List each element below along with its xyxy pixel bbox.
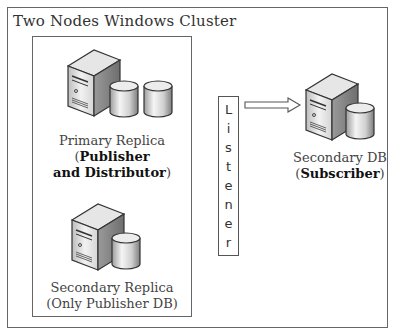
listener-letter: i — [227, 122, 231, 136]
server-with-two-databases-icon — [64, 42, 174, 120]
secondary-replica-label: Secondary Replica (Only Publisher DB) — [32, 280, 192, 312]
primary-replica-role-line2: and Distributor) — [32, 165, 192, 181]
listener-letter: e — [225, 217, 233, 231]
server-with-database-icon — [302, 66, 378, 144]
listener-letter: r — [226, 236, 231, 250]
primary-replica-label: Primary Replica (Publisher and Distribut… — [32, 133, 192, 181]
hollow-arrow-icon — [244, 97, 302, 113]
listener-letter: t — [226, 160, 231, 174]
server-with-database-icon — [68, 196, 144, 274]
subscriber-role: (Subscriber) — [280, 166, 398, 182]
subscriber-name: Secondary DB — [280, 150, 398, 166]
primary-replica-name: Primary Replica — [32, 133, 192, 149]
listener-letter: L — [225, 103, 232, 117]
listener-box: L i s t e n e r — [218, 96, 239, 256]
listener-letter: n — [224, 198, 232, 212]
secondary-replica-name: Secondary Replica — [32, 280, 192, 296]
primary-replica-role-line1: (Publisher — [32, 149, 192, 165]
secondary-replica-role: (Only Publisher DB) — [32, 296, 192, 312]
subscriber-label: Secondary DB (Subscriber) — [280, 150, 398, 182]
diagram-title: Two Nodes Windows Cluster — [13, 12, 236, 30]
listener-letter: s — [225, 141, 232, 155]
listener-letter: e — [225, 179, 233, 193]
